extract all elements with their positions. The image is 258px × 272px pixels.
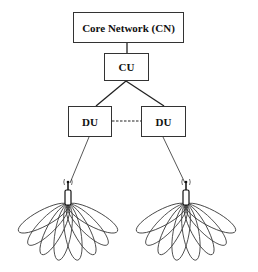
core-network-label: Core Network (CN) — [82, 22, 175, 34]
network-diagram: Core Network (CN) CU DU DU — [0, 0, 258, 272]
edge-cu-du-left — [96, 81, 126, 106]
antenna-icon — [182, 179, 191, 205]
cu-label: CU — [119, 61, 135, 73]
du-box-left: DU — [68, 106, 112, 137]
edge-cu-du-right — [126, 81, 164, 106]
du-box-right: DU — [141, 106, 186, 137]
cu-box: CU — [104, 53, 149, 81]
antenna-icon — [64, 179, 73, 205]
beam-pattern-right — [133, 198, 239, 262]
core-network-box: Core Network (CN) — [73, 12, 184, 43]
edge-du-left-antenna — [70, 137, 89, 183]
beam-pattern-left — [15, 198, 121, 262]
du-label-right: DU — [156, 116, 172, 128]
edge-du-right-antenna — [163, 137, 185, 183]
du-label-left: DU — [82, 116, 98, 128]
